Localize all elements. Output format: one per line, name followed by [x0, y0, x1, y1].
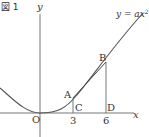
equation-eq: = — [121, 9, 134, 19]
x-axis-label: x — [133, 110, 139, 120]
tick-6-label: 6 — [103, 116, 109, 126]
point-d-label: D — [107, 103, 115, 113]
point-a-label: A — [64, 90, 71, 100]
figure-1: 図 1 y x O y = ax2 A B C D 3 6 — [0, 0, 149, 137]
origin-label: O — [32, 115, 40, 125]
tick-3-label: 3 — [70, 116, 76, 126]
parabola-curve — [0, 13, 143, 113]
point-b-label: B — [99, 53, 106, 63]
equation-exponent: 2 — [145, 8, 149, 15]
equation-label: y = ax2 — [116, 10, 149, 19]
equation-rhs: ax — [134, 9, 144, 19]
segment-ab — [73, 62, 106, 98]
point-c-label: C — [75, 103, 83, 113]
figure-title: 図 1 — [1, 3, 19, 12]
y-axis-label: y — [37, 2, 43, 12]
